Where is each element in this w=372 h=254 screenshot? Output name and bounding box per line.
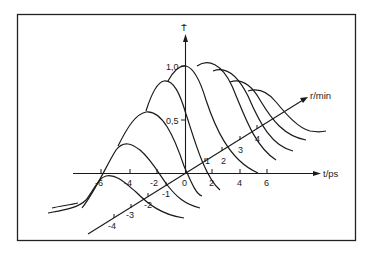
vertical-tick-05: 0,5 — [166, 116, 179, 126]
time-tick: -2 — [150, 178, 158, 188]
time-tick: -6 — [95, 178, 103, 188]
axis-arrow-icon — [313, 171, 321, 176]
horizontal-axis-label: t/ps — [323, 168, 339, 179]
axis-arrow-icon — [300, 97, 308, 103]
curve-r0 — [168, 66, 258, 173]
round-trip-axis — [88, 97, 308, 234]
vertical-tick-1: 1,0 — [166, 62, 179, 72]
depth-tick: 1 — [205, 156, 210, 166]
time-tick: 2 — [209, 178, 214, 188]
depth-tick: -1 — [162, 189, 170, 199]
curve-r2 — [213, 70, 293, 151]
time-tick: 4 — [237, 178, 242, 188]
depth-tick: -4 — [108, 221, 116, 231]
time-tick: -4 — [124, 178, 132, 188]
curve-r-3 — [82, 144, 200, 208]
depth-tick: 4 — [255, 134, 260, 144]
figure-frame — [18, 15, 356, 241]
depth-tick: -2 — [144, 200, 152, 210]
time-axis — [73, 169, 321, 176]
curve-r3 — [230, 81, 306, 140]
depth-tick: 2 — [221, 156, 226, 166]
vertical-axis-label: T̄ — [181, 22, 187, 33]
depth-axis-label: r/min — [310, 90, 331, 101]
pulse-curves — [48, 63, 326, 218]
time-tick: 0 — [182, 178, 187, 188]
curve-r1 — [197, 63, 276, 160]
time-tick: 6 — [264, 178, 269, 188]
axis-arrow-icon — [183, 34, 188, 42]
depth-tick: 3 — [238, 145, 243, 155]
waterfall-figure: T̄ 1,0 0,5 t/ps -6 -4 -2 0 2 4 6 r/min -… — [0, 0, 372, 254]
depth-tick: -3 — [126, 210, 134, 220]
